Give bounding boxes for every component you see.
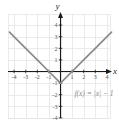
y-tick-label: 1 [55, 57, 58, 63]
y-tick-label: 2 [55, 46, 58, 52]
y-tick-label: 3 [55, 34, 58, 40]
coordinate-plane: -4-3-2-11234 -4-3-2-11234 y x f(x) = |x|… [0, 0, 119, 125]
graph-figure: -4-3-2-11234 -4-3-2-11234 y x f(x) = |x|… [0, 0, 119, 125]
function-equation-label: f(x) = |x| − 1 [74, 89, 113, 98]
x-tick-label: -2 [35, 74, 40, 80]
x-tick-label: 1 [71, 74, 74, 80]
y-tick-label: -4 [53, 115, 58, 121]
x-tick-label: 3 [94, 74, 97, 80]
y-axis-label: y [55, 1, 60, 11]
x-tick-label: 2 [82, 74, 85, 80]
x-tick-label: -4 [12, 74, 17, 80]
y-tick-label: -2 [53, 92, 58, 98]
x-tick-label: 4 [105, 74, 108, 80]
y-tick-label: -1 [53, 80, 58, 86]
y-tick-label: 4 [55, 22, 58, 28]
x-axis-label: x [112, 66, 117, 76]
y-tick-label: -3 [53, 104, 58, 110]
x-tick-label: -1 [46, 74, 51, 80]
x-tick-label: -3 [23, 74, 28, 80]
